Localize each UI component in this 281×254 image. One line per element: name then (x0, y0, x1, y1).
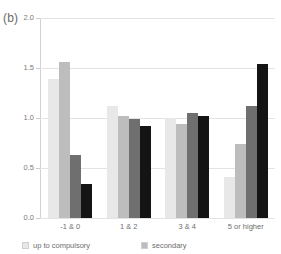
y-axis-tick (36, 68, 40, 69)
bar (246, 106, 257, 218)
y-axis-tick (36, 18, 40, 19)
legend-item-up-to-compulsory: up to compulsory (22, 241, 90, 250)
bar (81, 184, 92, 218)
bar (176, 124, 187, 218)
y-axis-tick-label: 0.0 (24, 214, 34, 222)
y-axis-tick (36, 218, 40, 219)
y-axis-tick-label: 2.0 (24, 14, 34, 22)
bar-group (158, 18, 217, 218)
bar (70, 155, 81, 218)
y-axis-tick-label: 0.5 (24, 164, 34, 172)
bar (198, 116, 209, 218)
bar (59, 62, 70, 218)
x-axis-label: 3 & 4 (158, 222, 217, 231)
legend-swatch-icon (22, 242, 29, 249)
chart-legend: up to compulsory secondary (22, 240, 272, 254)
x-axis-label: 1 & 2 (100, 222, 159, 231)
bar (48, 79, 59, 218)
bar (235, 144, 246, 218)
bar-group (100, 18, 159, 218)
bar (140, 126, 151, 218)
plot-area: 0.00.51.01.52.0 (40, 18, 275, 218)
x-axis-label: 5 or higher (217, 222, 276, 231)
x-axis-label: -1 & 0 (41, 222, 100, 231)
bar (118, 116, 129, 218)
bar-group (41, 18, 100, 218)
bars-area (41, 18, 275, 218)
bar-group (217, 18, 276, 218)
y-axis-tick-label: 1.5 (24, 64, 34, 72)
legend-label: secondary (152, 241, 187, 250)
legend-label: up to compulsory (33, 241, 90, 250)
bar (187, 113, 198, 218)
panel-label: (b) (3, 11, 18, 25)
y-axis-tick (36, 168, 40, 169)
bar (129, 119, 140, 218)
bar (107, 106, 118, 218)
y-axis-tick-label: 1.0 (24, 114, 34, 122)
legend-item-secondary: secondary (141, 241, 187, 250)
legend-swatch-icon (141, 242, 148, 249)
x-axis-labels: -1 & 01 & 23 & 45 or higher (41, 222, 275, 231)
bar (257, 64, 268, 218)
y-axis-tick (36, 118, 40, 119)
bar (165, 118, 176, 218)
bar (224, 177, 235, 218)
gridline (40, 218, 275, 219)
